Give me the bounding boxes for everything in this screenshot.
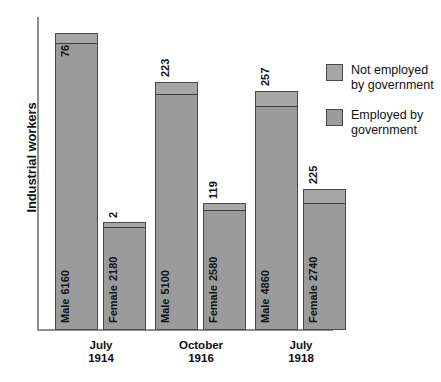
group-label-line2: 1916: [146, 352, 256, 365]
bar-inner-label-value: 2740: [307, 257, 319, 281]
bar-top-label-october1916-female: 119: [207, 181, 219, 199]
bar-segment-employed: [256, 92, 297, 107]
bar-inner-label: Female2180: [107, 257, 119, 323]
bar-inner-label-value: 5100: [159, 270, 171, 294]
bar-top-label-october1916-male: 223: [159, 59, 171, 77]
legend-swatch-not-employed-icon: [326, 64, 343, 81]
bar-inner-label: Female2740: [307, 257, 319, 323]
bar-segment-employed: [304, 190, 345, 204]
bar-segment-employed: [204, 204, 245, 211]
bar-july1914-female: Female2180: [103, 222, 146, 330]
x-axis-group-label-july1918: July 1918: [246, 339, 356, 365]
bar-top-label-july1914-male: 76: [59, 45, 71, 57]
bar-segment-employed: [104, 223, 145, 228]
bar-inner-label: Male6160: [59, 270, 71, 323]
group-label-line1: October: [146, 339, 256, 352]
bar-inner-label-sex: Male: [259, 299, 271, 323]
group-label-line2: 1914: [46, 352, 156, 365]
bar-inner-label-sex: Male: [159, 299, 171, 323]
bar-inner-label-value: 2580: [207, 257, 219, 281]
plot-area: Male6160 76 Female2180 2 Male5100 223: [39, 17, 333, 330]
bar-july1918-male: Male4860: [255, 91, 298, 330]
bar-july1914-male: Male6160: [55, 33, 98, 330]
y-axis-title: Industrial workers: [24, 83, 39, 233]
bar-inner-label-value: 6160: [59, 270, 71, 294]
legend-swatch-employed-icon: [326, 109, 343, 126]
bar-inner-label-sex: Male: [59, 299, 71, 323]
bar-inner-label-sex: Female: [207, 285, 219, 323]
legend-label-not-employed: Not employed by government: [351, 63, 434, 92]
x-axis-group-label-july1914: July 1914: [46, 339, 156, 365]
x-axis-group-label-october1916: October 1916: [146, 339, 256, 365]
group-label-line1: July: [46, 339, 156, 352]
chart-legend: Not employed by government Employed by g…: [326, 63, 441, 153]
legend-item-not-employed: Not employed by government: [326, 63, 441, 92]
group-label-line1: July: [246, 339, 356, 352]
legend-item-employed: Employed by government: [326, 108, 441, 137]
bar-october1916-female: Female2580: [203, 203, 246, 330]
bar-july1918-female: Female2740: [303, 189, 346, 330]
legend-label-line1: Employed by: [351, 108, 423, 123]
chart-title: [0, 0, 441, 4]
bar-top-label-july1918-male: 257: [259, 68, 271, 86]
bar-segment-employed: [56, 34, 97, 44]
bar-inner-label: Male5100: [159, 270, 171, 323]
bar-inner-label-value: 4860: [259, 270, 271, 294]
bar-top-label-july1914-female: 2: [107, 212, 119, 218]
group-label-line2: 1918: [246, 352, 356, 365]
bar-inner-label-sex: Female: [107, 285, 119, 323]
legend-label-line1: Not employed: [351, 63, 434, 78]
bar-inner-label: Female2580: [207, 257, 219, 323]
legend-label-line2: by government: [351, 78, 434, 93]
bar-inner-label: Male4860: [259, 270, 271, 323]
bar-inner-label-value: 2180: [107, 257, 119, 281]
bar-segment-employed: [156, 83, 197, 95]
bar-inner-label-sex: Female: [307, 285, 319, 323]
chart-container: Industrial workers Male6160 76 Female218…: [0, 0, 441, 382]
legend-label-employed: Employed by government: [351, 108, 423, 137]
bar-october1916-male: Male5100: [155, 82, 198, 330]
bar-top-label-july1918-female: 225: [307, 166, 319, 184]
legend-label-line2: government: [351, 123, 423, 138]
